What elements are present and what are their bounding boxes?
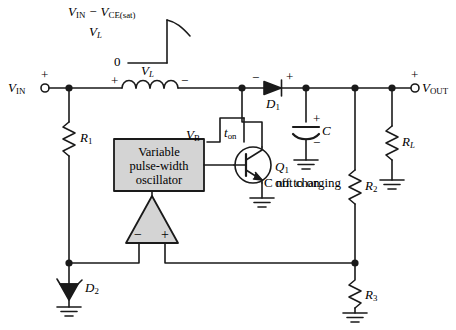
transistor-q1-subscript: 1 [284,165,288,175]
diode-d1-minus-sign: − [252,71,259,84]
zener-d2-label: D2 [85,281,99,296]
zener-d2-symbol [57,263,82,307]
resistor-r2-symbol [349,170,361,204]
resistor-r1-symbol [63,122,75,156]
oscillator-box-text: Variable pulse-width oscillator [114,145,204,187]
vin-polarity-plus: + [41,68,48,81]
resistor-r1-subscript: 1 [88,136,92,146]
ground-rl [380,180,404,189]
wire-minus-input-to-zener [69,243,139,263]
transistor-q1-symbol-letter: Q [275,159,284,174]
waveform-vin-symbol: V [68,4,76,19]
comparator-plus-input-sign: + [161,228,169,242]
inductor-label: VL [141,64,154,79]
zener-d2-subscript: 2 [94,286,98,296]
comparator-minus-input-sign: − [134,228,142,242]
vout-terminal-circle [411,84,419,92]
resistor-rl-symbol-letter: R [402,134,410,149]
capacitor-minus-sign: − [313,136,320,149]
t-on-label: ton [224,126,236,141]
vout-symbol: V [422,80,430,95]
waveform-vl-symbol: V [89,24,97,39]
diode-d1-subscript: 1 [275,102,279,112]
waveform-zero-label: 0 [114,55,121,68]
inductor-plus-sign: + [111,74,118,87]
capacitor-c-label: C [322,124,331,137]
ground-d2 [57,307,81,316]
inductor-vl-symbol: V [141,63,149,78]
ground-r3 [343,313,367,322]
capacitor-plus-sign: + [313,112,320,125]
resistor-rl-subscript: L [410,140,415,150]
resistor-r3-symbol-letter: R [365,287,373,302]
transistor-q1-label: Q1 [275,160,289,175]
transistor-q1-state: off to on [275,176,320,189]
vb-symbol: V [186,127,194,142]
circuit-svg [0,0,456,330]
resistor-r1-label: R1 [80,131,92,146]
wire-collector-to-rail [242,88,262,147]
diode-d1-plus-sign: + [286,70,293,83]
vout-label: VOUT [422,81,448,96]
waveform-trace [128,20,190,63]
resistor-r2-label: R2 [365,179,377,194]
base-voltage-label: VB [186,128,200,143]
vin-subscript: IN [16,86,25,96]
vin-label: VIN [8,81,25,96]
t-on-subscript: on [228,131,237,141]
vout-polarity-plus: + [411,68,418,81]
resistor-r2-symbol-letter: R [365,178,373,193]
resistor-r3-symbol [349,263,361,308]
inductor-vl-subscript: L [149,69,154,79]
ground-capacitor [294,160,318,169]
wire-plus-input-to-divider [165,243,355,263]
waveform-vce-subscript: CE(sat) [109,10,136,20]
resistor-rl-label: RL [402,135,415,150]
waveform-minus-symbol: − V [85,4,108,19]
oscillator-line-1: Variable [114,145,204,159]
waveform-top-level-label: VIN − VCE(sat) [68,5,135,20]
oscillator-line-2: pulse-width [114,159,204,173]
resistor-r3-subscript: 3 [373,293,377,303]
waveform-vl-subscript: L [97,30,102,40]
ground-q1-emitter [250,198,274,207]
inductor-minus-sign: − [181,74,188,87]
resistor-r3-label: R3 [365,288,377,303]
inductor-coils [122,81,178,89]
waveform-axis-label: VL [89,25,102,40]
vin-symbol: V [8,80,16,95]
zener-d2-symbol-letter: D [85,280,94,295]
resistor-r1-symbol-letter: R [80,130,88,145]
diode-d1-symbol [264,80,282,96]
schematic-canvas: VIN − VCE(sat) VL 0 VIN + VOUT + VL + − … [0,0,456,330]
vin-terminal-circle [41,84,49,92]
resistor-r2-subscript: 2 [373,184,377,194]
waveform-vin-subscript: IN [76,10,85,20]
diode-d1-symbol-letter: D [266,96,275,111]
vb-subscript: B [194,133,200,143]
diode-d1-label: D1 [266,97,280,112]
oscillator-line-3: oscillator [114,173,204,187]
resistor-rl-symbol [386,126,398,160]
vout-subscript: OUT [430,86,448,96]
